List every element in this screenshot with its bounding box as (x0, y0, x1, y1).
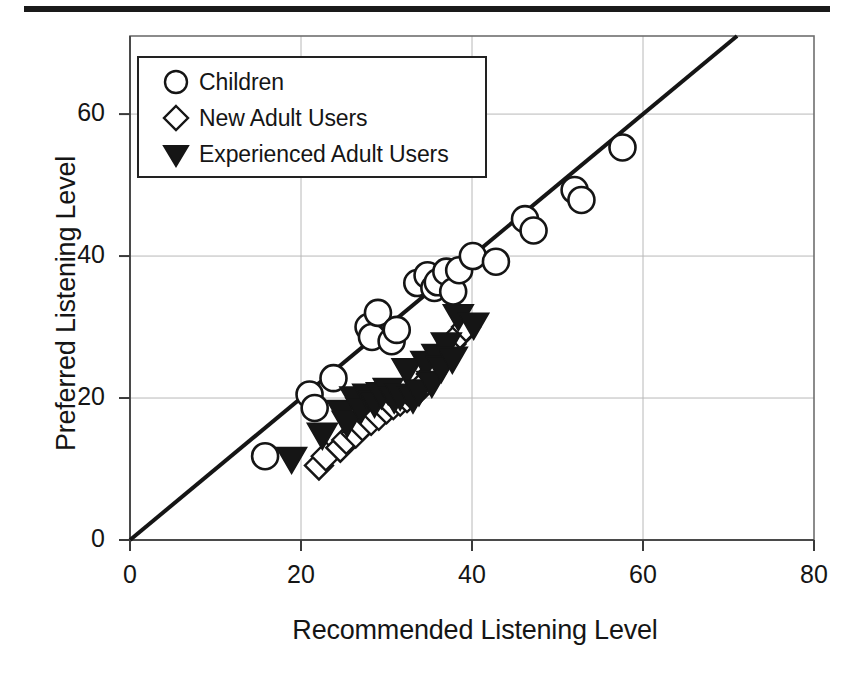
legend-entry-new-adult-users: New Adult Users (153, 100, 368, 136)
x-tick-label: 60 (613, 560, 673, 589)
x-axis-title: Recommended Listening Level (130, 615, 820, 646)
data-point-children (483, 249, 509, 275)
data-point-children (460, 243, 486, 269)
data-points (252, 134, 635, 479)
data-point-children (302, 395, 328, 421)
legend-entry-experienced-adult-users: Experienced Adult Users (153, 136, 449, 172)
data-point-children (521, 218, 547, 244)
filled-down-triangle-icon (153, 139, 199, 169)
figure-container: 0204060 020406080 Preferred Listening Le… (0, 0, 854, 681)
data-point-children (568, 187, 594, 213)
y-axis-title: Preferred Listening Level (51, 94, 82, 514)
open-diamond-icon (153, 103, 199, 133)
x-tick-label: 0 (100, 560, 160, 589)
legend: Children New Adult Users Experienced Adu… (137, 56, 487, 178)
data-point-experienced-adult-users (277, 447, 307, 473)
legend-label-children: Children (199, 69, 284, 96)
open-circle-icon (153, 67, 199, 97)
data-point-children (384, 317, 410, 343)
legend-entry-children: Children (153, 64, 284, 100)
data-point-children (609, 134, 635, 160)
legend-label-new-adult-users: New Adult Users (199, 105, 368, 132)
x-tick-label: 20 (271, 560, 331, 589)
legend-label-experienced-adult-users: Experienced Adult Users (199, 141, 449, 168)
x-tick-label: 40 (442, 560, 502, 589)
data-point-children (252, 443, 278, 469)
y-tick-label: 0 (45, 524, 105, 553)
x-tick-label: 80 (784, 560, 844, 589)
